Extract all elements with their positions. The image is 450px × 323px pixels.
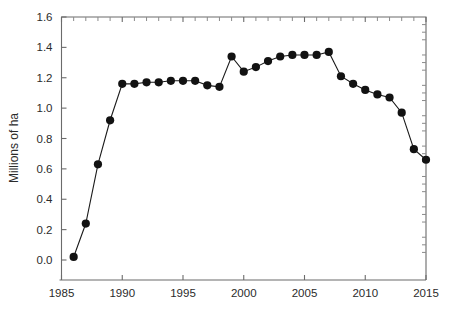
data-point — [252, 63, 260, 71]
x-tick-label: 1985 — [49, 287, 75, 299]
x-tick-label: 2000 — [231, 287, 257, 299]
data-point — [385, 93, 393, 101]
x-tick-label: 2010 — [352, 287, 378, 299]
data-point — [410, 145, 418, 153]
data-point — [228, 52, 236, 60]
y-axis-tick-labels: 0.00.20.40.60.81.01.21.41.6 — [37, 11, 54, 266]
data-point — [349, 80, 357, 88]
y-tick-label: 0.0 — [37, 254, 53, 266]
data-point — [313, 51, 321, 59]
data-point — [191, 77, 199, 85]
data-point — [203, 81, 211, 89]
data-point — [325, 48, 333, 56]
data-point — [264, 57, 272, 65]
data-point — [94, 160, 102, 168]
y-axis-title: Millions of ha — [7, 113, 21, 183]
y-tick-label: 0.4 — [37, 193, 54, 205]
data-point — [155, 78, 163, 86]
y-tick-label: 1.2 — [37, 72, 53, 84]
data-point — [142, 78, 150, 86]
data-point — [240, 68, 248, 76]
data-point — [106, 116, 114, 124]
data-point — [398, 109, 406, 117]
data-point — [130, 80, 138, 88]
data-point — [118, 80, 126, 88]
y-tick-label: 0.8 — [37, 133, 53, 145]
y-tick-label: 0.6 — [37, 163, 53, 175]
plot-background — [0, 0, 450, 323]
data-point — [179, 77, 187, 85]
data-point — [373, 90, 381, 98]
x-tick-label: 2015 — [413, 287, 439, 299]
y-tick-label: 1.0 — [37, 102, 53, 114]
data-point — [288, 51, 296, 59]
data-point — [361, 86, 369, 94]
chart-figure: 0.00.20.40.60.81.01.21.41.6 198519901995… — [0, 0, 450, 323]
data-point — [276, 52, 284, 60]
data-point — [337, 72, 345, 80]
data-point — [300, 51, 308, 59]
data-point — [70, 253, 78, 261]
x-tick-label: 1990 — [109, 287, 135, 299]
y-tick-label: 1.4 — [37, 41, 54, 53]
data-point — [82, 219, 90, 227]
x-tick-label: 1995 — [170, 287, 196, 299]
line-chart: 0.00.20.40.60.81.01.21.41.6 198519901995… — [0, 0, 450, 323]
y-tick-label: 0.2 — [37, 224, 53, 236]
x-tick-label: 2005 — [292, 287, 318, 299]
data-point — [215, 83, 223, 91]
data-point — [422, 156, 430, 164]
data-point — [167, 77, 175, 85]
y-tick-label: 1.6 — [37, 11, 53, 23]
